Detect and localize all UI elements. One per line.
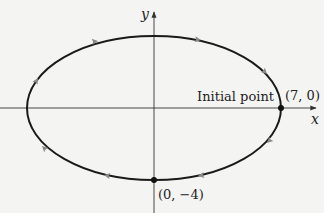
initial-point-label: Initial point (197, 89, 275, 104)
bottom-point-dot (151, 177, 157, 183)
point-label-0-neg4: (0, −4) (158, 187, 204, 202)
y-axis-label: y (140, 6, 150, 22)
ellipse-diagram: y x Initial point (7, 0) (0, −4) (0, 0, 324, 213)
x-axis-label: x (311, 111, 319, 127)
initial-point-dot (278, 105, 284, 111)
point-label-7-0: (7, 0) (285, 88, 320, 103)
